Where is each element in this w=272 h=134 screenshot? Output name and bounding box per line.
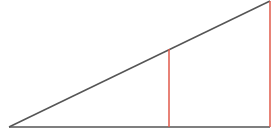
similar-triangles-diagram	[0, 0, 272, 134]
hypotenuse-line	[9, 1, 270, 127]
